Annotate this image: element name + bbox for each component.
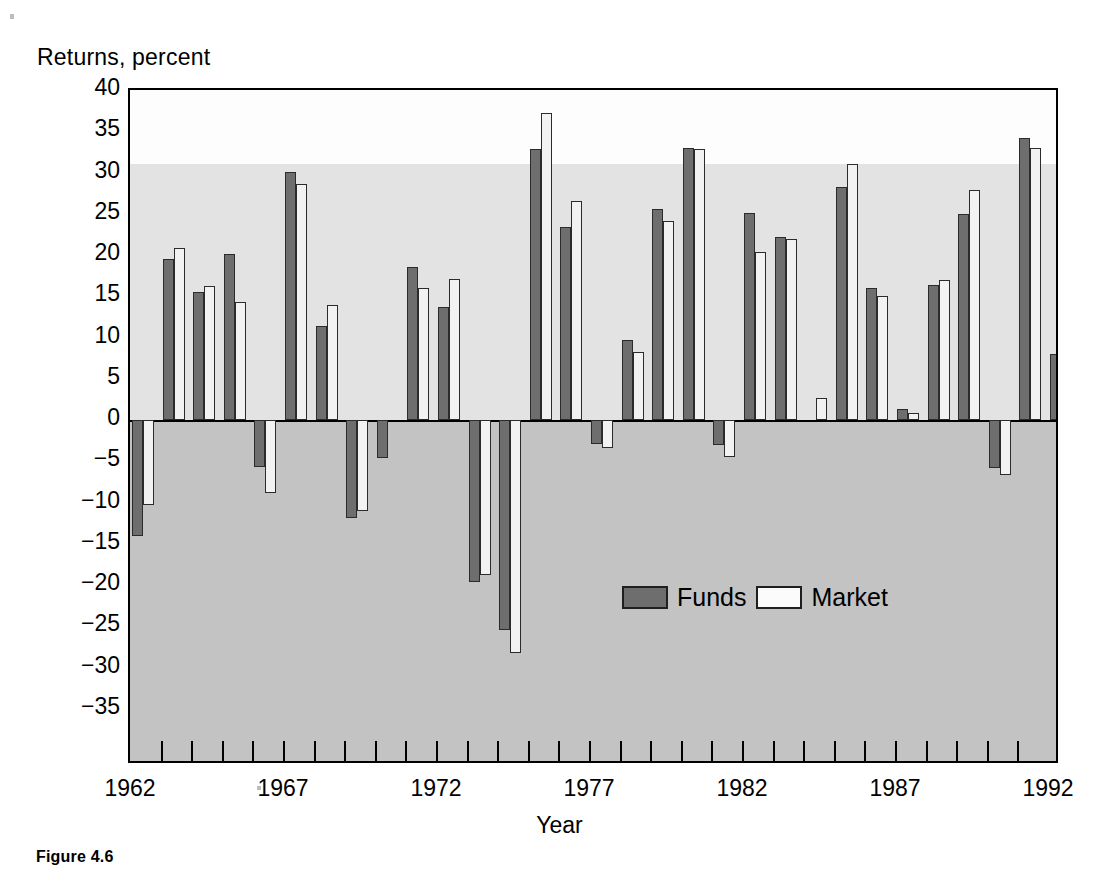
- bar-market-1976: [571, 201, 582, 420]
- y-axis-tick-label: 0: [28, 406, 120, 429]
- bar-market-1977: [602, 420, 613, 448]
- bar-funds-1981: [713, 420, 724, 445]
- bar-market-1972: [449, 279, 460, 420]
- bar-market-1971: [418, 288, 429, 420]
- x-axis-tick-mark: [405, 741, 407, 763]
- bar-market-1963: [174, 248, 185, 420]
- bar-funds-1963: [163, 259, 174, 420]
- legend-swatch-market-icon: [756, 586, 802, 609]
- bar-funds-1991: [1019, 138, 1030, 420]
- bar-funds-1973: [469, 420, 480, 582]
- x-axis-tick-mark: [467, 741, 469, 763]
- bar-market-1967: [296, 184, 307, 420]
- x-axis-tick-mark: [895, 741, 897, 763]
- x-axis-tick-label: 1977: [563, 775, 614, 802]
- x-axis-tick-mark: [375, 741, 377, 763]
- bar-funds-1971: [407, 267, 418, 420]
- bar-funds-1975: [530, 149, 541, 420]
- bar-funds-1989: [958, 214, 969, 420]
- bar-market-1964: [204, 286, 215, 420]
- x-axis-tick-mark: [497, 741, 499, 763]
- bar-funds-1976: [560, 227, 571, 420]
- bar-funds-1982: [744, 213, 755, 420]
- y-axis-tick-label: 15: [28, 282, 120, 305]
- bar-funds-1980: [683, 148, 694, 420]
- x-axis-tick-mark: [528, 741, 530, 763]
- bar-market-1985: [847, 164, 858, 420]
- bar-market-1969: [357, 420, 368, 511]
- legend-label-market: Market: [811, 585, 887, 610]
- bar-market-1987: [908, 413, 919, 420]
- y-axis-tick-label: 10: [28, 324, 120, 347]
- bar-funds-1965: [224, 254, 235, 420]
- y-axis-tick-label: 30: [28, 159, 120, 182]
- bar-funds-1972: [438, 307, 449, 420]
- x-axis-tick-mark: [222, 741, 224, 763]
- x-axis-tick-mark: [620, 741, 622, 763]
- x-axis-tick-label: 1992: [1022, 775, 1073, 802]
- bar-market-1975: [541, 113, 552, 420]
- x-axis-tick-mark: [344, 741, 346, 763]
- x-axis-tick-mark: [650, 741, 652, 763]
- bar-funds-1964: [193, 292, 204, 420]
- bar-funds-1992: [1050, 354, 1058, 420]
- y-axis-tick-label: −10: [28, 489, 120, 512]
- bar-funds-1970: [377, 420, 388, 458]
- x-axis-tick-mark: [252, 741, 254, 763]
- x-axis-tick-label: 1972: [410, 775, 461, 802]
- x-axis-tick-mark: [864, 741, 866, 763]
- x-axis-tick-mark: [834, 741, 836, 763]
- bar-market-1989: [969, 190, 980, 420]
- bar-market-1979: [663, 221, 674, 420]
- bar-market-1980: [694, 149, 705, 420]
- plot-background-mid-band: [130, 164, 1056, 420]
- bar-funds-1969: [346, 420, 357, 518]
- plot-area: [128, 88, 1058, 763]
- y-axis-tick-label: 35: [28, 117, 120, 140]
- bar-market-1990: [1000, 420, 1011, 475]
- y-axis-tick-label: −30: [28, 654, 120, 677]
- bar-market-1973: [480, 420, 491, 575]
- y-axis-tick-label: −20: [28, 571, 120, 594]
- y-axis-tick-label: −5: [28, 447, 120, 470]
- x-axis-tick-mark: [283, 741, 285, 763]
- bar-funds-1967: [285, 172, 296, 420]
- legend-item-funds[interactable]: Funds: [622, 585, 746, 610]
- bar-market-1966: [265, 420, 276, 493]
- bar-funds-1986: [866, 288, 877, 420]
- x-axis-tick-mark: [987, 741, 989, 763]
- x-axis-tick-mark: [711, 741, 713, 763]
- x-axis-tick-mark: [314, 741, 316, 763]
- y-axis-title: Returns, percent: [37, 44, 210, 71]
- x-axis-tick-mark: [436, 741, 438, 763]
- bar-market-1991: [1030, 148, 1041, 420]
- x-axis-tick-mark: [681, 741, 683, 763]
- x-axis-tick-mark: [773, 741, 775, 763]
- x-axis-tick-label: 1967: [257, 775, 308, 802]
- x-axis-tick-mark: [161, 741, 163, 763]
- bar-market-1986: [877, 296, 888, 420]
- plot-background-upper-band: [130, 90, 1056, 164]
- bar-funds-1985: [836, 187, 847, 420]
- chart-legend: Funds Market: [622, 585, 888, 610]
- legend-swatch-funds-icon: [622, 586, 668, 609]
- bar-market-1968: [327, 305, 338, 421]
- legend-item-market[interactable]: Market: [756, 585, 887, 610]
- x-axis-tick-label: 1987: [869, 775, 920, 802]
- bar-market-1982: [755, 252, 766, 420]
- x-axis-tick-mark: [956, 741, 958, 763]
- bar-funds-1987: [897, 409, 908, 420]
- bar-funds-1968: [316, 326, 327, 420]
- scan-speck: [257, 786, 261, 790]
- bar-market-1974: [510, 420, 521, 653]
- bar-funds-1990: [989, 420, 1000, 468]
- bar-funds-1978: [622, 340, 633, 420]
- x-axis-tick-mark: [926, 741, 928, 763]
- bar-funds-1962: [132, 420, 143, 536]
- bar-funds-1977: [591, 420, 602, 444]
- figure-caption: Figure 4.6: [36, 848, 114, 866]
- bar-funds-1974: [499, 420, 510, 630]
- bar-market-1984: [816, 398, 827, 420]
- x-axis-tick-mark: [1017, 741, 1019, 763]
- bar-funds-1979: [652, 209, 663, 420]
